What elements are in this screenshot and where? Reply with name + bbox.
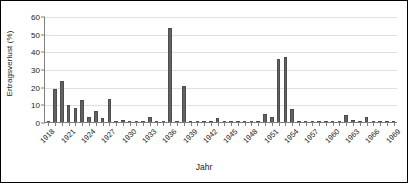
x-axis-tick-mark: [245, 123, 246, 126]
x-axis-tick-mark: [204, 123, 205, 126]
x-axis-tick-mark: [333, 123, 334, 126]
plot-area: 0102030405060: [45, 17, 397, 123]
x-axis-tick-mark: [251, 123, 252, 126]
x-axis-tick-mark: [48, 123, 49, 126]
x-axis-tick-mark: [224, 123, 225, 126]
y-axis-line: [44, 17, 45, 123]
gridline: [45, 105, 397, 106]
x-axis-line: [44, 122, 397, 123]
bar: [108, 99, 112, 123]
x-axis-tick-label: 1918: [35, 127, 57, 149]
x-axis-tick-mark: [136, 123, 137, 126]
x-axis-tick-mark: [109, 123, 110, 126]
bar: [168, 28, 172, 123]
x-axis-tick-mark: [150, 123, 151, 126]
x-axis-tick-mark: [123, 123, 124, 126]
y-axis-title-text: Ertragsverlust (%): [6, 30, 15, 96]
x-axis-tick-mark: [299, 123, 300, 126]
x-axis-tick-mark: [218, 123, 219, 126]
y-axis-title: Ertragsverlust (%): [3, 1, 17, 125]
x-axis-tick-mark: [191, 123, 192, 126]
x-axis-tick-mark: [143, 123, 144, 126]
x-axis-tick-mark: [184, 123, 185, 126]
x-axis-tick-mark: [306, 123, 307, 126]
x-axis-tick-mark: [394, 123, 395, 126]
x-axis-tick-mark: [360, 123, 361, 126]
x-axis-tick-mark: [96, 123, 97, 126]
x-axis-tick-mark: [211, 123, 212, 126]
chart-figure: Ertragsverlust (%) 0102030405060 1918192…: [0, 0, 408, 183]
x-axis-tick-mark: [163, 123, 164, 126]
x-axis-tick-label: 1960: [319, 127, 341, 149]
x-axis-tick-mark: [346, 123, 347, 126]
gridline: [45, 52, 397, 53]
x-axis-tick-mark: [170, 123, 171, 126]
x-axis-tick-label: 1945: [218, 127, 240, 149]
x-axis-tick-mark: [265, 123, 266, 126]
x-axis-tick-mark: [258, 123, 259, 126]
x-axis-tick-label: 1963: [339, 127, 361, 149]
bar: [290, 109, 294, 123]
x-axis-tick-mark: [353, 123, 354, 126]
x-axis-tick-mark: [272, 123, 273, 126]
x-axis-tick-mark: [285, 123, 286, 126]
x-axis-tick-label: 1921: [55, 127, 77, 149]
x-axis-tick-label: 1930: [116, 127, 138, 149]
x-axis-tick-mark: [55, 123, 56, 126]
x-axis-tick-mark: [380, 123, 381, 126]
x-axis-tick-mark: [373, 123, 374, 126]
gridline: [45, 35, 397, 36]
gridline: [45, 88, 397, 89]
x-axis-tick-mark: [177, 123, 178, 126]
x-axis-title: Jahr: [1, 162, 407, 172]
bar: [74, 108, 78, 123]
x-axis-tick-label: 1924: [75, 127, 97, 149]
x-axis-tick-mark: [130, 123, 131, 126]
bar: [53, 89, 57, 123]
x-axis-tick-mark: [157, 123, 158, 126]
x-axis-tick-mark: [116, 123, 117, 126]
gridline: [45, 70, 397, 71]
gridline: [45, 17, 397, 18]
x-axis-tick-mark: [326, 123, 327, 126]
x-axis-tick-mark: [279, 123, 280, 126]
bar: [182, 86, 186, 123]
x-axis-tick-label: 1948: [238, 127, 260, 149]
x-axis-tick-mark: [367, 123, 368, 126]
x-axis-tick-label: 1969: [380, 127, 402, 149]
x-axis-tick-mark: [387, 123, 388, 126]
x-axis-tick-label: 1927: [96, 127, 118, 149]
x-axis-tick-mark: [238, 123, 239, 126]
x-axis-tick-mark: [339, 123, 340, 126]
x-axis-tick-label: 1951: [258, 127, 280, 149]
x-axis-tick-label: 1942: [197, 127, 219, 149]
x-axis-tick-mark: [75, 123, 76, 126]
x-axis-tick-label: 1936: [157, 127, 179, 149]
x-axis-tick-mark: [292, 123, 293, 126]
bar: [60, 81, 64, 123]
x-axis-tick-mark: [197, 123, 198, 126]
bar: [80, 100, 84, 123]
x-axis-tick-label: 1933: [136, 127, 158, 149]
bar: [284, 57, 288, 123]
x-axis-tick-mark: [319, 123, 320, 126]
x-axis-tick-mark: [82, 123, 83, 126]
bar: [67, 105, 71, 123]
x-axis-tick-label: 1939: [177, 127, 199, 149]
bar: [277, 59, 281, 123]
x-axis-tick-mark: [89, 123, 90, 126]
x-axis-tick-mark: [231, 123, 232, 126]
x-axis-tick-label: 1966: [360, 127, 382, 149]
x-axis-tick-mark: [69, 123, 70, 126]
x-axis-tick-label: 1957: [299, 127, 321, 149]
x-axis-tick-label: 1954: [279, 127, 301, 149]
x-axis-tick-mark: [312, 123, 313, 126]
x-axis-tick-mark: [62, 123, 63, 126]
x-axis-tick-mark: [103, 123, 104, 126]
